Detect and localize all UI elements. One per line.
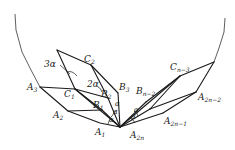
label-A2n-2: A2n−2 <box>197 92 221 103</box>
label-B1: B1 <box>92 100 103 111</box>
angle-label-alpha-3: α <box>115 100 120 108</box>
angle-label-3alpha: 3α <box>44 59 56 69</box>
angle-label-alpha-1: α <box>109 116 114 124</box>
angle-label-alpha-2: α <box>113 108 118 116</box>
edge-apex-C1 <box>57 50 75 89</box>
geometry-diagram: A3 A2 A1 A2n A2n−1 A2n−2 C1 C2 Cn−3 B1 B… <box>0 0 235 150</box>
label-A1: A1 <box>94 127 105 138</box>
edge-A2-B1 <box>68 110 102 111</box>
right-boundary-curve <box>214 18 225 62</box>
left-boundary-curve <box>15 14 40 87</box>
edge-top-A2n2 <box>196 62 214 92</box>
label-A2n: A2n <box>129 130 144 141</box>
angle-label-alpha-r2: α <box>134 106 139 114</box>
label-A2: A2 <box>52 110 64 121</box>
label-C1: C1 <box>64 89 75 100</box>
label-C2: C2 <box>84 54 95 65</box>
label-Cn-3: Cn−3 <box>170 62 190 73</box>
label-A3: A3 <box>26 82 38 93</box>
label-B3: B3 <box>118 82 130 93</box>
edge-A2n1-A2n <box>120 113 163 127</box>
label-Bn-2: Bn−2 <box>135 86 156 97</box>
label-A2n-1: A2n−1 <box>163 116 187 127</box>
angle-label-2alpha: 2α <box>86 79 99 89</box>
label-B2: B2 <box>100 89 112 100</box>
angle-label-alpha-r1: α <box>131 113 136 121</box>
